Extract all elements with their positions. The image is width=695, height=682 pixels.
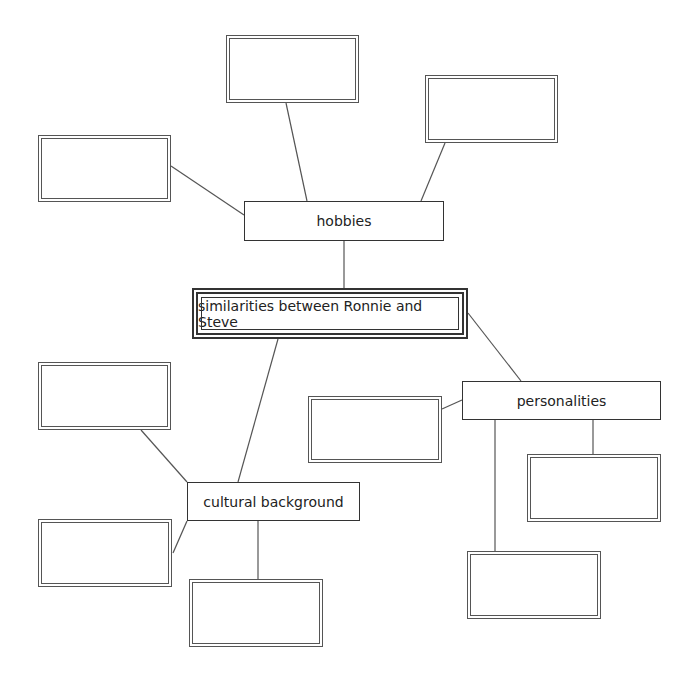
line-hobbies-b1 — [171, 166, 244, 215]
center-node: similarities between Ronnie and Steve — [192, 288, 468, 339]
center-label: similarities between Ronnie and Steve — [198, 298, 462, 330]
blank-box-hobbies-3[interactable] — [425, 75, 558, 143]
line-cultural-b5 — [173, 521, 187, 553]
line-hobbies-b3 — [421, 143, 445, 201]
line-hobbies-b2 — [286, 103, 307, 201]
category-hobbies: hobbies — [244, 201, 444, 241]
blank-box-hobbies-2[interactable] — [226, 35, 359, 103]
hobbies-label: hobbies — [316, 213, 371, 229]
category-personalities: personalities — [462, 381, 661, 420]
line-personalities-b7 — [442, 400, 462, 409]
line-center-cultural — [238, 339, 278, 482]
category-cultural-background: cultural background — [187, 482, 360, 521]
blank-box-cultural-2[interactable] — [38, 519, 172, 587]
line-center-personalities — [468, 313, 521, 381]
line-cultural-b4 — [141, 430, 187, 482]
blank-box-personalities-1[interactable] — [308, 396, 442, 463]
blank-box-personalities-2[interactable] — [527, 454, 661, 522]
blank-box-personalities-3[interactable] — [467, 551, 601, 619]
blank-box-cultural-1[interactable] — [38, 362, 171, 430]
cultural-background-label: cultural background — [203, 494, 343, 510]
blank-box-hobbies-1[interactable] — [38, 135, 171, 202]
blank-box-cultural-3[interactable] — [189, 579, 323, 647]
personalities-label: personalities — [517, 393, 607, 409]
